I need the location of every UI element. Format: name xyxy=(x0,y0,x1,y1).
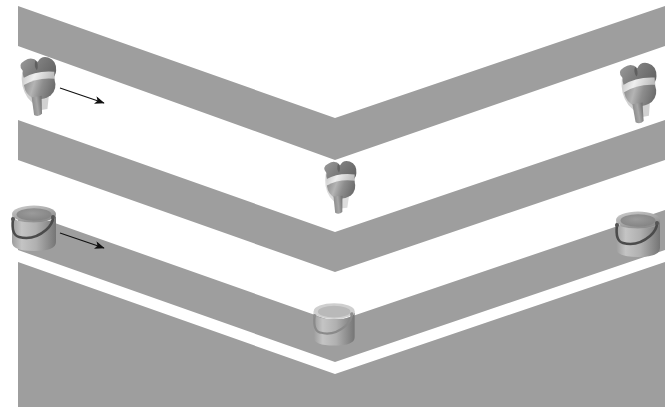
bucket-right xyxy=(615,212,660,258)
bone-joint-left xyxy=(19,55,63,117)
bucket-rim-inner xyxy=(621,214,656,226)
bucket-handle-lug-left xyxy=(11,217,15,221)
figure-canvas xyxy=(0,0,671,411)
bucket-middle xyxy=(313,303,355,345)
bucket-handle-lug-right xyxy=(655,221,659,225)
bone-joint-right xyxy=(618,61,664,126)
chevron-band-1 xyxy=(18,6,665,160)
bucket-handle-lug-right xyxy=(350,312,354,316)
bucket-rim-inner xyxy=(318,306,351,318)
bucket-handle-lug-right xyxy=(51,215,55,219)
bucket-left xyxy=(11,206,56,252)
scene xyxy=(0,0,671,411)
bucket-handle-lug-left xyxy=(313,314,317,318)
bone-joint-middle xyxy=(323,160,361,215)
motion-arrow-top xyxy=(60,88,104,103)
bucket-rim-inner xyxy=(17,208,52,220)
bucket-handle-lug-left xyxy=(615,223,619,227)
